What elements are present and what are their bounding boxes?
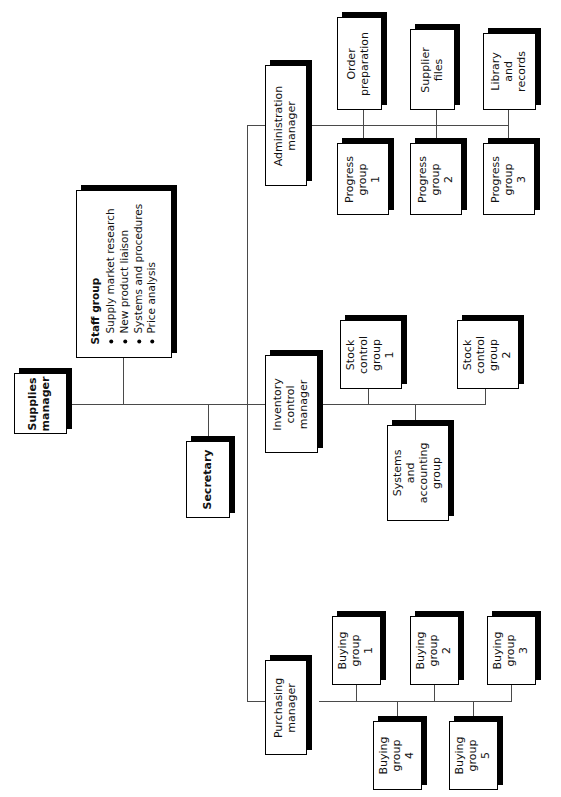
stock-control-group-1-line3: group xyxy=(370,339,383,371)
order-preparation-line1: Order xyxy=(346,48,359,79)
subspine-administration xyxy=(307,125,509,126)
supplies-manager-line2: manager xyxy=(40,376,53,431)
node-progress-group-1[interactable]: Progress group 1 xyxy=(337,143,389,215)
list-item: Systems and procedures xyxy=(131,204,145,334)
staff-group-content: Staff group Supply market research New p… xyxy=(89,204,159,345)
box-face: Progress group 2 xyxy=(410,143,462,215)
secretary-label: Secretary xyxy=(201,449,214,509)
box-face: Purchasing manager xyxy=(265,660,307,755)
purchasing-manager-line1: Purchasing xyxy=(272,677,285,737)
branch-stock-control-1 xyxy=(368,389,369,405)
node-stock-control-group-2[interactable]: Stock control group 2 xyxy=(457,320,519,389)
box-face: Buying group 2 xyxy=(410,616,459,685)
progress-group-2-line1: Progress xyxy=(416,156,429,203)
box-face: Inventory control manager xyxy=(265,355,318,453)
box-face: Stock control group 1 xyxy=(340,320,402,389)
administration-manager-line1: Administration xyxy=(272,85,285,166)
node-progress-group-3[interactable]: Progress group 3 xyxy=(483,143,535,215)
progress-group-1-line1: Progress xyxy=(343,156,356,203)
spine-managers xyxy=(247,125,248,701)
stock-control-group-2-line2: control xyxy=(474,335,487,373)
box-face: Administration manager xyxy=(265,65,307,186)
node-buying-group-1[interactable]: Buying group 1 xyxy=(332,616,381,685)
box-face: Order preparation xyxy=(337,17,382,110)
box-face: Secretary xyxy=(186,441,230,518)
node-inventory-control-manager[interactable]: Inventory control manager xyxy=(265,355,318,453)
buying-group-2-line3: 2 xyxy=(440,647,453,654)
box-face: Library and records xyxy=(483,33,536,110)
node-buying-group-2[interactable]: Buying group 2 xyxy=(410,616,459,685)
library-and-records-line3: records xyxy=(515,51,528,92)
branch-buying-group-1 xyxy=(356,685,357,702)
box-face: Buying group 4 xyxy=(373,721,422,790)
node-library-and-records[interactable]: Library and records xyxy=(483,33,536,110)
box-face: Progress group 1 xyxy=(337,143,389,215)
buying-group-1-line3: 1 xyxy=(362,647,375,654)
node-progress-group-2[interactable]: Progress group 2 xyxy=(410,143,462,215)
box-face: Stock control group 2 xyxy=(457,320,519,389)
buying-group-3-line3: 3 xyxy=(517,647,530,654)
stub-purchasing xyxy=(247,701,265,702)
inventory-control-manager-line1: Inventory xyxy=(271,378,284,431)
node-supplies-manager[interactable]: Supplies manager xyxy=(14,373,67,434)
buying-group-5-line1: Buying xyxy=(453,736,466,774)
list-item: New product liaison xyxy=(118,204,132,334)
systems-accounting-line4: group xyxy=(430,457,443,489)
box-face: Buying group 1 xyxy=(332,616,381,685)
buying-group-1-line1: Buying xyxy=(336,631,349,669)
box-face: Supplier files xyxy=(410,29,455,110)
list-item: Supply market research xyxy=(104,204,118,334)
node-buying-group-4[interactable]: Buying group 4 xyxy=(373,721,422,790)
node-stock-control-group-1[interactable]: Stock control group 1 xyxy=(340,320,402,389)
branch-supplier-files xyxy=(436,110,437,126)
buying-group-2-line1: Buying xyxy=(414,631,427,669)
stem-staff-group xyxy=(123,358,124,404)
box-face: Buying group 5 xyxy=(449,721,498,790)
staff-group-title: Staff group xyxy=(89,204,103,345)
buying-group-5-line2: group xyxy=(466,740,479,772)
node-administration-manager[interactable]: Administration manager xyxy=(265,65,307,186)
box-face: Buying group 3 xyxy=(487,616,536,685)
branch-buying-group-2 xyxy=(434,685,435,702)
node-secretary[interactable]: Secretary xyxy=(186,441,230,518)
administration-manager-line2: manager xyxy=(285,101,298,150)
node-buying-group-3[interactable]: Buying group 3 xyxy=(487,616,536,685)
stub-inventory xyxy=(247,404,265,405)
progress-group-3-line3: 3 xyxy=(514,176,527,183)
systems-accounting-line1: Systems xyxy=(391,450,404,497)
branch-library-records xyxy=(508,110,509,126)
branch-buying-group-3 xyxy=(511,685,512,702)
node-staff-group[interactable]: Staff group Supply market research New p… xyxy=(76,190,172,358)
buying-group-4-line3: 4 xyxy=(403,752,416,759)
list-item: Price analysis xyxy=(145,204,159,334)
buying-group-2-line2: group xyxy=(427,635,440,667)
buying-group-3-line2: group xyxy=(504,635,517,667)
library-and-records-line1: Library xyxy=(489,52,502,90)
subspine-inventory xyxy=(322,404,485,405)
purchasing-manager-line2: manager xyxy=(285,683,298,732)
branch-stock-control-2 xyxy=(485,389,486,405)
progress-group-2-line2: group xyxy=(429,163,442,195)
stock-control-group-2-line3: group xyxy=(487,339,500,371)
org-chart: Supplies manager Staff group Supply mark… xyxy=(0,0,561,797)
inventory-control-manager-line2: control xyxy=(284,385,297,423)
progress-group-1-line3: 1 xyxy=(368,176,381,183)
inventory-control-manager-line3: manager xyxy=(297,379,310,428)
stub-administration xyxy=(247,125,265,126)
library-and-records-line2: and xyxy=(502,61,515,82)
order-preparation-line2: preparation xyxy=(359,31,372,95)
node-supplier-files[interactable]: Supplier files xyxy=(410,29,455,110)
node-order-preparation[interactable]: Order preparation xyxy=(337,17,382,110)
buying-group-3-line1: Buying xyxy=(491,631,504,669)
progress-group-1-line2: group xyxy=(356,163,369,195)
node-buying-group-5[interactable]: Buying group 5 xyxy=(449,721,498,790)
progress-group-3-line1: Progress xyxy=(489,156,502,203)
box-face: Supplies manager xyxy=(14,373,67,434)
box-face: Progress group 3 xyxy=(483,143,535,215)
progress-group-3-line2: group xyxy=(502,163,515,195)
systems-accounting-line3: accounting xyxy=(417,443,430,504)
stock-control-group-1-line4: 1 xyxy=(383,351,396,358)
buying-group-4-line1: Buying xyxy=(377,736,390,774)
node-purchasing-manager[interactable]: Purchasing manager xyxy=(265,660,307,755)
node-systems-and-accounting-group[interactable]: Systems and accounting group xyxy=(387,425,449,521)
